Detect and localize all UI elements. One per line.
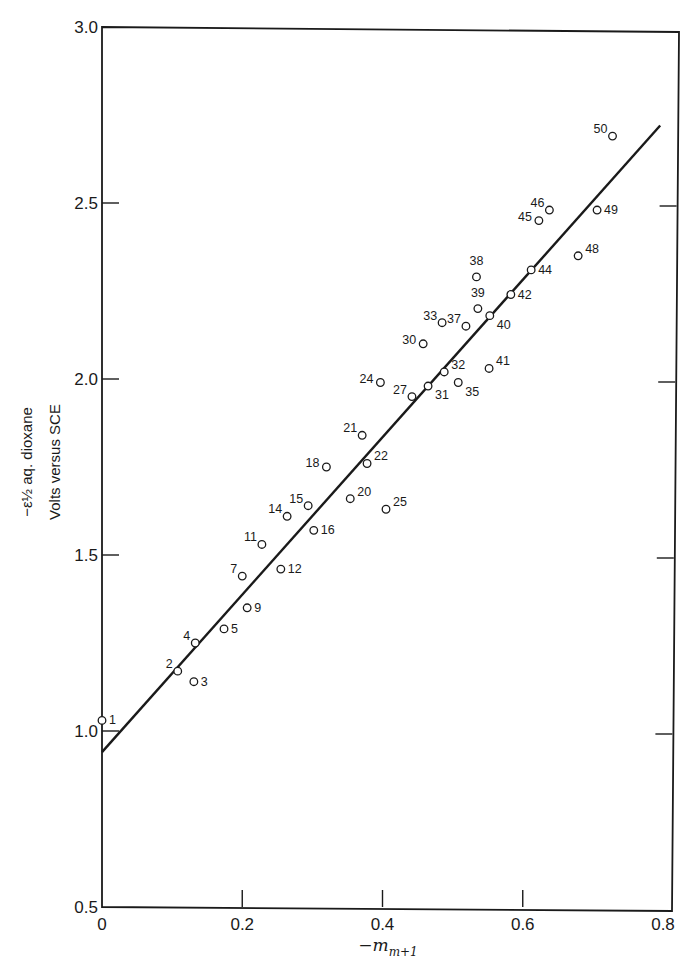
data-point: 39 [471, 286, 485, 313]
scatter-plot: 00.20.40.60.8 0.51.01.52.02.53.0 1234579… [0, 0, 695, 963]
point-label: 12 [288, 562, 302, 576]
x-tick-label: 0.4 [371, 915, 395, 934]
data-point: 48 [574, 242, 599, 260]
point-label: 33 [423, 309, 437, 323]
x-axis-label-main: −m [358, 935, 388, 955]
point-label: 15 [289, 492, 303, 506]
plot-border [102, 27, 679, 911]
point-marker [462, 322, 470, 330]
point-marker [304, 502, 312, 510]
point-label: 35 [465, 385, 479, 399]
data-point: 12 [277, 562, 302, 576]
point-marker [238, 572, 246, 580]
data-point: 31 [424, 382, 449, 402]
data-point: 5 [220, 622, 238, 636]
point-label: 18 [305, 456, 319, 470]
x-tick-label: 0.2 [230, 915, 254, 934]
point-label: 44 [538, 263, 552, 277]
point-label: 20 [357, 485, 371, 499]
point-label: 16 [321, 523, 335, 537]
data-point: 24 [359, 372, 384, 387]
point-marker [485, 365, 493, 373]
x-axis-label: −mm+1 [358, 935, 417, 959]
data-points: 1234579111214151618202122242527303132333… [98, 122, 618, 727]
point-label: 42 [518, 288, 532, 302]
point-label: 22 [374, 449, 388, 463]
point-label: 1 [109, 713, 116, 727]
point-label: 21 [343, 421, 357, 435]
point-label: 3 [201, 675, 208, 689]
point-label: 49 [604, 203, 618, 217]
data-point: 15 [289, 492, 312, 510]
point-marker [98, 717, 106, 725]
point-marker [191, 639, 199, 647]
point-marker [574, 252, 582, 260]
point-marker [546, 206, 554, 214]
data-point: 20 [346, 485, 371, 503]
data-point: 42 [507, 288, 532, 302]
point-marker [474, 305, 482, 313]
point-marker [283, 512, 291, 520]
y-tick-label: 2.5 [74, 194, 98, 213]
point-marker [190, 678, 198, 686]
data-point: 16 [310, 523, 335, 537]
data-point: 3 [190, 675, 208, 689]
point-marker [609, 132, 617, 140]
x-tick-label: 0.8 [651, 915, 675, 934]
data-point: 44 [527, 263, 552, 277]
point-marker [377, 379, 385, 387]
point-marker [243, 604, 251, 612]
y-tick-label: 3.0 [74, 18, 98, 37]
point-marker [507, 291, 515, 299]
data-point: 35 [454, 379, 479, 399]
point-label: 4 [183, 629, 190, 643]
point-marker [527, 266, 535, 274]
data-point: 7 [230, 562, 246, 580]
point-marker [382, 505, 390, 513]
data-point: 25 [382, 495, 407, 513]
point-label: 7 [230, 562, 237, 576]
point-marker [358, 432, 366, 440]
data-point: 33 [423, 309, 446, 327]
data-point: 41 [485, 354, 510, 372]
point-label: 40 [497, 318, 511, 332]
point-marker [363, 460, 371, 468]
x-tick-label: 0.6 [511, 915, 535, 934]
y-tick-label: 2.0 [74, 370, 98, 389]
y-axis-label-line1: −ε½ aq. dioxane [18, 407, 35, 517]
point-marker [593, 206, 601, 214]
x-axis-ticks: 00.20.40.60.8 [97, 890, 675, 934]
data-point: 4 [183, 629, 199, 647]
point-label: 48 [585, 242, 599, 256]
point-marker [454, 379, 462, 387]
point-label: 27 [393, 383, 407, 397]
y-axis-label-line2: Volts versus SCE [46, 404, 63, 520]
y-tick-label: 1.5 [74, 546, 98, 565]
data-point: 14 [268, 502, 291, 520]
data-point: 22 [363, 449, 388, 467]
point-marker [258, 541, 266, 549]
point-label: 50 [594, 122, 608, 136]
point-label: 31 [435, 388, 449, 402]
point-label: 2 [166, 657, 173, 671]
point-marker [486, 312, 494, 320]
point-marker [277, 565, 285, 573]
point-marker [419, 340, 427, 348]
point-label: 9 [254, 601, 261, 615]
point-label: 24 [359, 372, 373, 386]
plot-frame [102, 27, 679, 911]
point-marker [408, 393, 416, 401]
data-point: 49 [593, 203, 618, 217]
data-point: 37 [447, 312, 470, 330]
point-marker [220, 625, 228, 633]
y-tick-label: 1.0 [74, 722, 98, 741]
data-point: 27 [393, 383, 416, 401]
data-point: 9 [243, 601, 261, 615]
point-marker [346, 495, 354, 503]
chart-figure: 00.20.40.60.8 0.51.01.52.02.53.0 1234579… [0, 0, 695, 963]
point-marker [438, 319, 446, 327]
x-axis-label-subscript: m+1 [389, 945, 418, 959]
data-point: 21 [343, 421, 366, 439]
data-point: 1 [98, 713, 116, 727]
point-marker [440, 368, 448, 376]
